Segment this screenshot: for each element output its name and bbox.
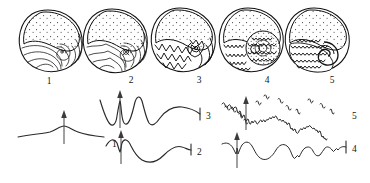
- figure-root: 1 2: [0, 0, 370, 183]
- shell-4-label: 4: [265, 75, 270, 85]
- suture-4-label: 4: [352, 144, 357, 154]
- shell-1-label: 1: [47, 76, 52, 86]
- suture-2-curve: [106, 140, 191, 162]
- shell-diagram-1: 1: [19, 10, 82, 86]
- suture-line-diagram-5: 5: [222, 95, 357, 141]
- suture-3-label: 3: [206, 111, 211, 121]
- shell-3-label: 3: [197, 75, 202, 85]
- suture-4-curve: [222, 142, 346, 159]
- suture-1-curve: [18, 126, 104, 137]
- shell-diagram-3: 3: [151, 8, 215, 85]
- shell-diagram-2: 2: [83, 9, 147, 85]
- shell-diagram-5: 5: [285, 8, 349, 85]
- suture-line-diagram-3: 3: [100, 90, 211, 128]
- suture-line-diagram-1: 1: [18, 110, 117, 149]
- suture-5-label: 5: [352, 111, 357, 121]
- ammonoid-suture-figure: 1 2: [0, 0, 370, 183]
- suture-1-arrow: [61, 110, 67, 144]
- shell-5-label: 5: [330, 75, 335, 85]
- shell-diagram-4: 4: [219, 8, 283, 85]
- suture-line-diagram-4: 4: [222, 132, 357, 168]
- shell-4-inner-whorl: [246, 31, 280, 65]
- suture-2-label: 2: [197, 147, 202, 157]
- suture-5-arrow: [243, 96, 249, 130]
- suture-line-diagram-2: 2: [106, 130, 202, 164]
- suture-4-arrow: [234, 132, 240, 168]
- suture-3-curve: [100, 97, 200, 125]
- suture-2-arrow: [118, 130, 124, 164]
- shell-2-label: 2: [129, 75, 134, 85]
